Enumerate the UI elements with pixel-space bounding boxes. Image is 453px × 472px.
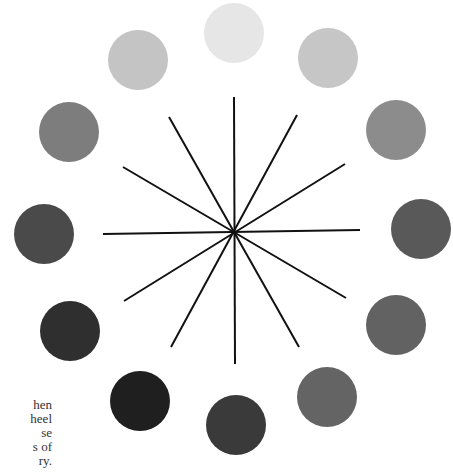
value-circle-10	[14, 204, 74, 264]
value-circle-8	[110, 371, 170, 431]
value-circle-4	[391, 199, 451, 259]
text-fragment-4: s of	[0, 440, 52, 454]
value-circle-5	[366, 295, 426, 355]
value-circle-12	[108, 30, 168, 90]
value-circle-1	[204, 3, 264, 63]
value-circle-9	[40, 301, 100, 361]
value-circle-7	[206, 395, 266, 455]
value-circle-2	[298, 28, 358, 88]
text-fragment-1: hen	[0, 398, 52, 412]
text-fragment-3: se	[0, 426, 52, 440]
value-circle-3	[366, 100, 426, 160]
value-circle-6	[297, 367, 357, 427]
text-fragment-2: heel	[0, 412, 52, 426]
value-circle-11	[39, 102, 99, 162]
value-wheel-diagram	[0, 0, 453, 472]
text-fragment-5: ry.	[0, 454, 52, 468]
